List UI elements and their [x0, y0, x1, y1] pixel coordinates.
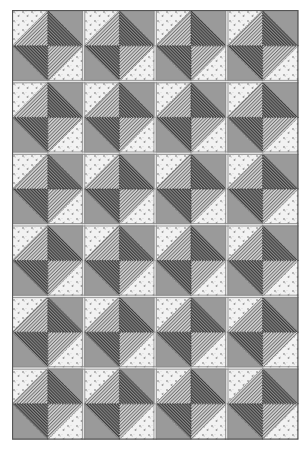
quilt-block	[84, 296, 156, 368]
quilt-block	[84, 82, 156, 154]
quilt-grid	[12, 10, 299, 442]
quilt-diagram	[12, 10, 299, 442]
